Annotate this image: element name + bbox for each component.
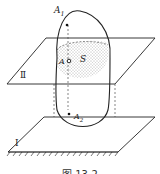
label-s: S — [80, 55, 86, 64]
point-a-circle — [67, 59, 71, 63]
point-a1-dot — [66, 24, 69, 27]
label-plane-ii: Ⅱ — [20, 71, 26, 80]
diagram-canvas — [0, 0, 160, 174]
point-a2-dot — [68, 113, 71, 116]
label-a: A — [59, 58, 65, 66]
figure-caption: 图 13-2 — [0, 166, 160, 174]
label-a2: A2 — [74, 113, 83, 123]
label-a1: A1 — [54, 6, 65, 17]
label-plane-i: Ⅰ — [15, 139, 19, 148]
